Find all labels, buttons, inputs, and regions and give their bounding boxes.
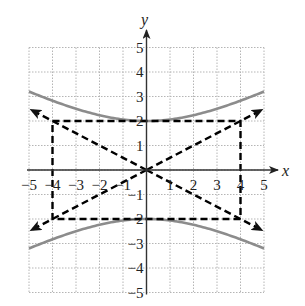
y-tick-label: 4: [136, 64, 144, 80]
y-tick-label: −3: [128, 236, 144, 252]
y-tick-label: −1: [128, 187, 144, 203]
y-tick-label: −5: [128, 285, 144, 301]
x-tick-label: 1: [166, 177, 174, 193]
y-tick-label: 1: [136, 138, 144, 154]
y-tick-label: 5: [136, 40, 144, 56]
x-tick-label: −4: [45, 177, 61, 193]
y-tick-label: 2: [136, 113, 144, 129]
x-tick-label: −3: [68, 177, 84, 193]
x-axis-label: x: [281, 162, 289, 179]
x-tick-label: 2: [190, 177, 198, 193]
y-tick-label: −4: [128, 260, 144, 276]
y-axis-label: y: [139, 11, 149, 29]
x-tick-label: 5: [260, 177, 268, 193]
hyperbola-graph: −5−4−3−2−112345−5−4−3−2−112345 x y: [0, 0, 305, 306]
y-tick-label: 3: [136, 89, 144, 105]
x-tick-label: 4: [237, 177, 245, 193]
x-tick-label: 3: [213, 177, 221, 193]
x-tick-label: −5: [21, 177, 37, 193]
x-tick-label: −2: [92, 177, 108, 193]
y-tick-label: −2: [128, 211, 144, 227]
